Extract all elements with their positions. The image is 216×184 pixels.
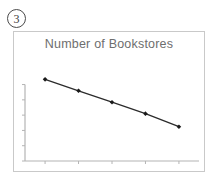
data-point-marker: [43, 77, 48, 82]
chart-container: Number of Bookstores: [13, 31, 205, 172]
data-point-marker: [177, 124, 182, 129]
line-chart-plot: [14, 32, 206, 173]
data-point-marker: [76, 88, 81, 93]
figure-number-badge: 3: [7, 9, 26, 28]
data-point-marker: [110, 100, 115, 105]
data-point-markers: [43, 77, 181, 129]
data-point-marker: [143, 111, 148, 116]
figure-number-label: 3: [14, 13, 20, 25]
